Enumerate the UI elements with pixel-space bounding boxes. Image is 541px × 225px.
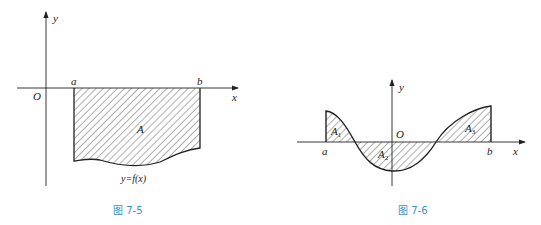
a-label: a — [322, 145, 328, 157]
region-A3 — [436, 106, 491, 142]
origin-label: O — [33, 90, 41, 102]
figure-7-6: y x O a b A1 A2 A3 图 7-6 — [297, 80, 525, 216]
figure-7-5: y x O a b A y=f(x) 图 7-5 — [17, 12, 238, 216]
origin-label: O — [396, 128, 404, 140]
b-label: b — [197, 75, 203, 87]
diagram-canvas: y x O a b A y=f(x) 图 7-5 y x O a b A1 A2… — [0, 0, 541, 225]
figure-caption: 图 7-6 — [398, 205, 428, 216]
y-axis-label: y — [398, 81, 404, 93]
curve-label: y=f(x) — [120, 173, 147, 185]
b-label: b — [487, 145, 493, 157]
x-axis-label: x — [512, 145, 518, 157]
figure-caption: 图 7-5 — [113, 205, 143, 216]
a-label: a — [71, 75, 77, 87]
y-axis-label: y — [52, 12, 58, 24]
x-axis-label: x — [231, 91, 237, 103]
region-A2 — [355, 142, 436, 171]
area-label: A — [136, 123, 144, 135]
